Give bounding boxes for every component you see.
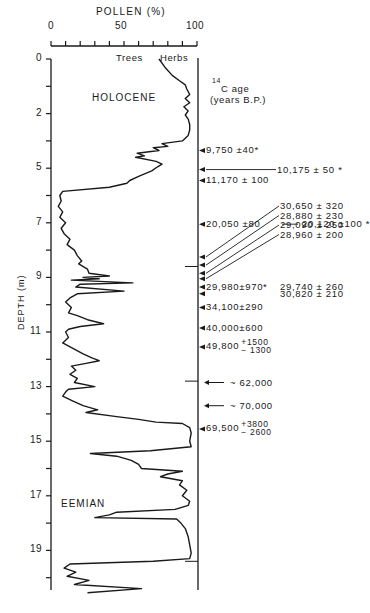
y-tick-label: 7: [36, 216, 42, 227]
c14-date-label: 28,960 ± 200: [280, 229, 344, 240]
trees-label: Trees: [116, 52, 143, 63]
y-tick-label: 11: [30, 325, 41, 336]
c14-superscript: 14: [212, 77, 221, 84]
c14-date-label: 9,750 ±40*: [206, 144, 259, 155]
arrow-icon: [199, 167, 205, 172]
c14-date-label: ~ 70,000: [230, 400, 273, 411]
y-tick-label: 5: [36, 161, 42, 172]
c14-date-label: 11,170 ± 100: [206, 174, 269, 185]
age-axis-title-line2: (years B.P.): [210, 94, 266, 105]
arrow-icon: [199, 271, 205, 276]
arrow-icon: [199, 222, 205, 227]
c14-date-label: ~ 62,000: [230, 377, 273, 388]
y-tick-label: 17: [30, 489, 42, 500]
x-tick-50: 50: [115, 20, 127, 31]
c14-date-label: 20,050 ±80: [206, 218, 260, 229]
arrow-icon: [199, 178, 205, 183]
arrow-icon: [199, 426, 205, 431]
arrow-icon: [199, 345, 205, 350]
y-tick-label: 19: [30, 543, 42, 554]
arrow-icon: [199, 263, 205, 268]
leader-line: [206, 235, 279, 279]
c14-date-label: 34,100±290: [206, 301, 263, 312]
c14-date-label: 29,980±970*: [206, 281, 268, 292]
trees-herbs-pollen-curve: [58, 59, 191, 593]
arrow-icon: [199, 276, 205, 281]
age-axis-title-line1: C age: [221, 83, 249, 94]
herbs-label: Herbs: [160, 52, 188, 63]
arrow-icon: [204, 380, 209, 385]
c14-date-label: 69,500+3800− 2600: [206, 420, 272, 436]
y-tick-label: 0: [36, 52, 42, 63]
y-tick-label: 13: [30, 380, 42, 391]
zone-eemian: EEMIAN: [61, 498, 105, 509]
zone-holocene: HOLOCENE: [92, 92, 156, 103]
c14-date-label: 40,000±600: [206, 322, 263, 333]
y-tick-label: 9: [36, 270, 42, 281]
c14-date-label: 49,800+1500− 1300: [206, 338, 272, 354]
x-axis-title: POLLEN (%): [96, 6, 166, 17]
y-tick-label: 15: [30, 434, 42, 445]
y-axis-title: DEPTH (m): [16, 275, 26, 331]
arrow-icon: [199, 305, 205, 310]
y-tick-label: 2: [36, 107, 42, 118]
x-tick-0: 0: [48, 20, 54, 31]
arrow-icon: [199, 148, 205, 153]
arrow-icon: [199, 284, 205, 289]
arrow-icon: [199, 325, 205, 330]
c14-date-label: 10,175 ± 50 *: [277, 164, 343, 175]
arrow-icon: [204, 403, 209, 408]
x-tick-100: 100: [186, 20, 204, 31]
arrow-icon: [199, 254, 205, 259]
arrow-icon: [199, 291, 205, 296]
c14-date-label: 30,820 ± 210: [280, 288, 344, 299]
